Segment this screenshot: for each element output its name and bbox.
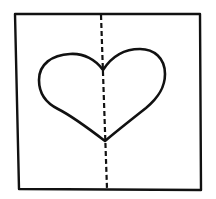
heart-shape bbox=[39, 49, 165, 141]
square-frame bbox=[15, 14, 201, 190]
symmetry-diagram bbox=[0, 0, 216, 199]
symmetry-line bbox=[101, 15, 107, 189]
